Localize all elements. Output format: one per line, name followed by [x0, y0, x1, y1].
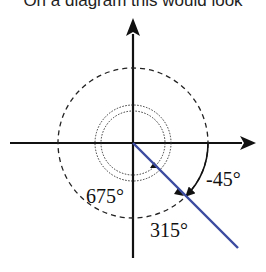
- y-axis-arrow-icon: [126, 18, 140, 36]
- arc-neg45: [186, 143, 208, 196]
- label-neg45: -45°: [206, 168, 241, 190]
- x-axis-arrow-icon: [240, 136, 256, 150]
- label-675: 675°: [86, 185, 124, 207]
- label-315: 315°: [150, 219, 188, 241]
- axes: [10, 18, 256, 258]
- angle-diagram: -45° 675° 315°: [0, 0, 266, 272]
